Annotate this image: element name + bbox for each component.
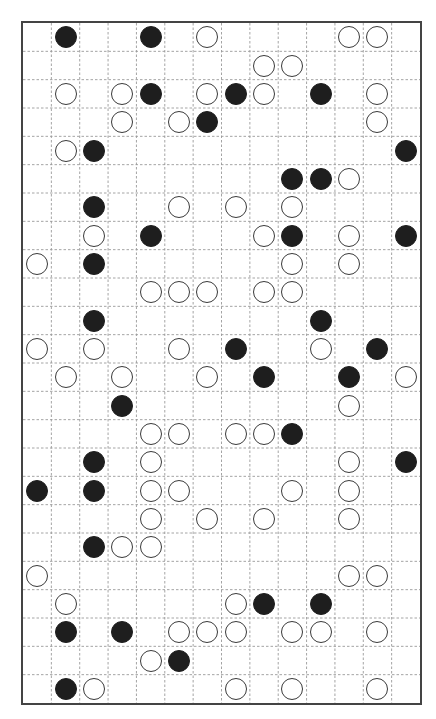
white-stone[interactable] <box>168 111 190 133</box>
white-stone[interactable] <box>196 83 218 105</box>
black-stone[interactable] <box>83 451 105 473</box>
white-stone[interactable] <box>253 423 275 445</box>
black-stone[interactable] <box>55 621 77 643</box>
white-stone[interactable] <box>140 650 162 672</box>
white-stone[interactable] <box>338 480 360 502</box>
game-board[interactable] <box>21 21 422 705</box>
white-stone[interactable] <box>26 253 48 275</box>
white-stone[interactable] <box>168 196 190 218</box>
white-stone[interactable] <box>55 366 77 388</box>
black-stone[interactable] <box>395 140 417 162</box>
black-stone[interactable] <box>55 26 77 48</box>
board-grid-lines <box>23 23 420 703</box>
white-stone[interactable] <box>338 395 360 417</box>
white-stone[interactable] <box>253 83 275 105</box>
white-stone[interactable] <box>225 621 247 643</box>
black-stone[interactable] <box>310 83 332 105</box>
black-stone[interactable] <box>55 678 77 700</box>
white-stone[interactable] <box>225 678 247 700</box>
white-stone[interactable] <box>140 480 162 502</box>
white-stone[interactable] <box>366 565 388 587</box>
black-stone[interactable] <box>26 480 48 502</box>
white-stone[interactable] <box>338 508 360 530</box>
white-stone[interactable] <box>140 536 162 558</box>
white-stone[interactable] <box>338 253 360 275</box>
black-stone[interactable] <box>83 253 105 275</box>
black-stone[interactable] <box>140 26 162 48</box>
white-stone[interactable] <box>168 621 190 643</box>
white-stone[interactable] <box>168 281 190 303</box>
black-stone[interactable] <box>310 310 332 332</box>
black-stone[interactable] <box>83 140 105 162</box>
white-stone[interactable] <box>338 225 360 247</box>
black-stone[interactable] <box>83 310 105 332</box>
white-stone[interactable] <box>140 451 162 473</box>
black-stone[interactable] <box>83 196 105 218</box>
white-stone[interactable] <box>168 423 190 445</box>
black-stone[interactable] <box>140 225 162 247</box>
white-stone[interactable] <box>225 196 247 218</box>
white-stone[interactable] <box>83 678 105 700</box>
white-stone[interactable] <box>281 55 303 77</box>
white-stone[interactable] <box>55 140 77 162</box>
white-stone[interactable] <box>140 423 162 445</box>
white-stone[interactable] <box>26 565 48 587</box>
white-stone[interactable] <box>55 593 77 615</box>
white-stone[interactable] <box>310 338 332 360</box>
white-stone[interactable] <box>55 83 77 105</box>
black-stone[interactable] <box>310 168 332 190</box>
black-stone[interactable] <box>225 338 247 360</box>
black-stone[interactable] <box>253 593 275 615</box>
black-stone[interactable] <box>225 83 247 105</box>
white-stone[interactable] <box>140 508 162 530</box>
white-stone[interactable] <box>111 83 133 105</box>
white-stone[interactable] <box>310 621 332 643</box>
white-stone[interactable] <box>281 480 303 502</box>
white-stone[interactable] <box>395 366 417 388</box>
black-stone[interactable] <box>83 480 105 502</box>
white-stone[interactable] <box>83 338 105 360</box>
white-stone[interactable] <box>140 281 162 303</box>
white-stone[interactable] <box>225 423 247 445</box>
white-stone[interactable] <box>338 565 360 587</box>
white-stone[interactable] <box>26 338 48 360</box>
black-stone[interactable] <box>310 593 332 615</box>
white-stone[interactable] <box>168 480 190 502</box>
white-stone[interactable] <box>83 225 105 247</box>
black-stone[interactable] <box>395 451 417 473</box>
white-stone[interactable] <box>168 338 190 360</box>
black-stone[interactable] <box>281 225 303 247</box>
black-stone[interactable] <box>395 225 417 247</box>
white-stone[interactable] <box>253 508 275 530</box>
white-stone[interactable] <box>253 55 275 77</box>
black-stone[interactable] <box>140 83 162 105</box>
white-stone[interactable] <box>338 168 360 190</box>
black-stone[interactable] <box>168 650 190 672</box>
black-stone[interactable] <box>83 536 105 558</box>
white-stone[interactable] <box>225 593 247 615</box>
white-stone[interactable] <box>196 508 218 530</box>
black-stone[interactable] <box>111 395 133 417</box>
white-stone[interactable] <box>253 225 275 247</box>
